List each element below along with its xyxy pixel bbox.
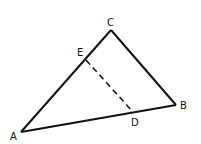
label-c: C xyxy=(107,17,114,28)
label-e: E xyxy=(77,47,83,58)
segment-ac xyxy=(21,30,111,132)
segment-ed-dashed xyxy=(86,60,133,112)
label-d: D xyxy=(131,117,139,128)
label-a: A xyxy=(10,131,17,142)
triangle-diagram: A B C D E xyxy=(0,0,201,144)
segment-ab xyxy=(21,105,176,132)
label-b: B xyxy=(180,100,187,111)
segment-cb xyxy=(111,30,176,105)
